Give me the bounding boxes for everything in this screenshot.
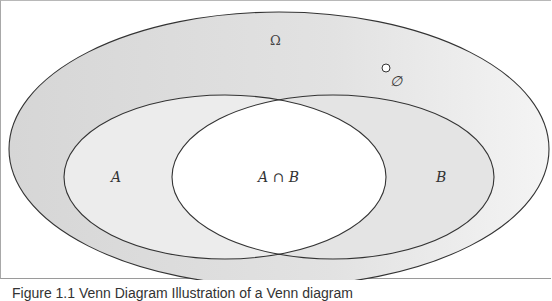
- set-b-label: B: [435, 169, 446, 185]
- figure-caption: Figure 1.1 Venn Diagram Illustration of …: [12, 286, 353, 301]
- empty-set-label: ∅: [390, 73, 403, 89]
- universe-label: Ω: [270, 33, 281, 48]
- intersection-label: A ∩ B: [256, 169, 299, 185]
- set-a-label: A: [109, 169, 121, 185]
- empty-set-point: [382, 64, 390, 72]
- venn-diagram: Ω ∅ A A ∩ B B: [0, 0, 552, 280]
